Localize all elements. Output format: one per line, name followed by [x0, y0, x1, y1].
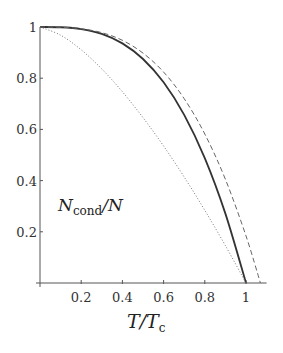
y-tick-label: 1 [29, 20, 37, 35]
x-tick-label: 0.4 [112, 290, 133, 305]
x-tick-label: 0.8 [194, 290, 215, 305]
chart: 0.20.40.60.810.20.40.60.81 Ncond/N T/Tc [0, 0, 283, 353]
axes: 0.20.40.60.810.20.40.60.81 [16, 20, 266, 305]
x-tick-label: 0.6 [153, 290, 174, 305]
x-tick-label: 0.2 [71, 290, 92, 305]
y-tick-label: 0.2 [16, 225, 37, 240]
annotation-label: Ncond/N [57, 195, 124, 218]
y-tick-label: 0.4 [16, 174, 37, 189]
y-tick-label: 0.6 [16, 122, 37, 137]
y-tick-label: 0.8 [16, 71, 37, 86]
series [40, 27, 260, 283]
x-tick-label: 1 [242, 290, 250, 305]
x-axis-label: T/Tc [127, 310, 166, 335]
